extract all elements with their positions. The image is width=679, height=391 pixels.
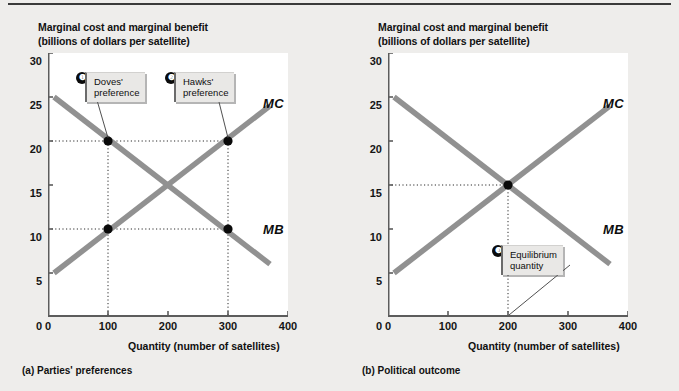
panel-a-ytick-30: 30 <box>14 55 42 67</box>
panel-b-ytick-5: 5 <box>354 275 382 287</box>
panel-parties-preferences: Marginal cost and marginal benefit (bill… <box>0 0 339 391</box>
panel-a-ytick-5: 5 <box>14 275 42 287</box>
panel-b-plot-area <box>388 53 628 317</box>
panel-b-ytick-25: 25 <box>354 99 382 111</box>
panel-b-xtick-300: 300 <box>548 320 588 332</box>
panel-a-callout-doves-line1: Doves' <box>94 76 123 87</box>
panel-a-xtick-400: 400 <box>268 320 308 332</box>
figure-container: Marginal cost and marginal benefit (bill… <box>0 0 679 391</box>
panel-a-mc-curve <box>54 106 270 273</box>
panel-b-caption: (b) Political outcome <box>362 365 460 376</box>
panel-political-outcome: Marginal cost and marginal benefit (bill… <box>340 0 679 391</box>
panel-a-xtick-200: 200 <box>148 320 188 332</box>
panel-a-callout-doves-line2: preference <box>94 87 139 98</box>
panel-b-xtick-100: 100 <box>428 320 468 332</box>
panel-b-ytick-20: 20 <box>354 143 382 155</box>
panel-a-xtick-100: 100 <box>88 320 128 332</box>
panel-a-callout-doves: Doves' preference <box>85 72 145 102</box>
panel-a-xtick-0: 0 <box>28 320 68 332</box>
panel-a-ytick-25: 25 <box>14 99 42 111</box>
panel-a-marker-hawks-mb <box>223 224 232 233</box>
panel-b-axis-title-line1: Marginal cost and marginal benefit <box>378 21 548 33</box>
panel-b-callout-equilibrium-line1: Equilibrium <box>510 249 557 260</box>
panel-a-callout-hawks: Hawks' preference <box>174 72 234 102</box>
panel-b-mb-label: MB <box>603 222 624 237</box>
panel-a-axis-title-line2: (billions of dollars per satellite) <box>38 34 208 48</box>
panel-a-guide-lines <box>48 141 228 317</box>
panel-a-ytick-15: 15 <box>14 187 42 199</box>
panel-b-guide-lines <box>388 185 508 317</box>
panel-b-plot-svg <box>388 53 628 317</box>
panel-a-mb-label: MB <box>263 222 284 237</box>
panel-a-axis-title: Marginal cost and marginal benefit (bill… <box>38 20 208 48</box>
panel-b-ytick-10: 10 <box>354 231 382 243</box>
panel-b-ytick-30: 30 <box>354 55 382 67</box>
panel-a-callout-hawks-line1: Hawks' <box>183 76 213 87</box>
panel-a-xaxis-label: Quantity (number of satellites) <box>128 340 280 352</box>
panel-b-xtick-0: 0 <box>368 320 408 332</box>
panel-b-xtick-400: 400 <box>608 320 648 332</box>
panel-b-mc-label: MC <box>603 96 624 111</box>
panel-b-ytick-15: 15 <box>354 187 382 199</box>
panel-a-callout-hawks-line2: preference <box>183 87 228 98</box>
panel-a-ytick-10: 10 <box>14 231 42 243</box>
panel-a-plot-svg <box>48 53 288 317</box>
panel-a-marker-doves-mc <box>103 224 112 233</box>
panel-b-marker-equilibrium <box>503 180 512 189</box>
panel-b-xtick-200: 200 <box>488 320 528 332</box>
panel-a-axis-title-line1: Marginal cost and marginal benefit <box>38 21 208 33</box>
panel-a-plot-area <box>48 53 288 317</box>
panel-b-callout-equilibrium-line2: quantity <box>510 260 543 271</box>
panel-a-mc-label: MC <box>263 96 284 111</box>
panel-b-axis-title: Marginal cost and marginal benefit (bill… <box>378 20 548 48</box>
panel-b-xaxis-label: Quantity (number of satellites) <box>468 340 620 352</box>
panel-b-axis-title-line2: (billions of dollars per satellite) <box>378 34 548 48</box>
panel-b-callout-equilibrium: Equilibrium quantity <box>501 245 563 275</box>
panel-a-caption: (a) Parties' preferences <box>22 365 132 376</box>
panel-b-mb-curve <box>394 97 610 264</box>
panel-a-ytick-20: 20 <box>14 143 42 155</box>
panel-a-xtick-300: 300 <box>208 320 248 332</box>
panel-a-mb-curve <box>54 97 270 264</box>
